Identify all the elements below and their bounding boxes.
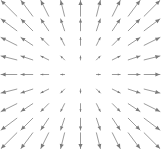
quiver-arrow	[79, 118, 82, 130]
quiver-arrow	[144, 104, 160, 112]
quiver-arrow	[21, 0, 33, 16]
quiver-arrow-head	[135, 108, 140, 112]
quiver-arrow-head	[135, 37, 140, 41]
quiver-arrow	[96, 89, 100, 93]
quiver-arrow	[144, 37, 160, 45]
quiver-arrow	[21, 118, 33, 130]
quiver-arrow	[61, 73, 65, 75]
quiver-arrow-head	[1, 90, 6, 94]
quiver-arrow	[128, 104, 140, 112]
quiver-arrow	[1, 0, 17, 16]
quiver-arrow-head	[60, 0, 64, 5]
quiver-arrow-head	[60, 144, 64, 149]
quiver-arrow-head	[79, 91, 81, 93]
quiver-arrow	[41, 56, 49, 60]
quiver-arrow	[1, 55, 17, 60]
quiver-arrow	[60, 19, 64, 31]
quiver-arrow	[112, 133, 120, 149]
quiver-arrow-head	[78, 0, 82, 5]
quiver-arrow	[79, 56, 81, 60]
quiver-arrow	[41, 37, 49, 45]
quiver-arrow	[21, 37, 33, 45]
quiver-arrow-head	[41, 125, 45, 130]
quiver-arrow	[112, 89, 120, 93]
quiver-arrow	[79, 104, 81, 112]
quiver-arrow-head	[21, 37, 26, 41]
quiver-arrow-head	[21, 0, 25, 5]
quiver-arrow	[128, 89, 140, 93]
quiver-arrow	[112, 73, 120, 75]
quiver-arrow	[112, 104, 120, 112]
quiver-arrow-head	[41, 19, 45, 24]
quiver-arrow	[79, 19, 82, 31]
quiver-arrow	[61, 37, 65, 45]
quiver-arrow-head	[155, 126, 160, 130]
quiver-arrow	[144, 0, 160, 16]
quiver-arrow	[112, 118, 120, 130]
quiver-arrow-head	[1, 55, 6, 59]
quiver-arrow-head	[79, 19, 82, 23]
quiver-arrow	[128, 118, 140, 130]
quiver-arrow-head	[21, 73, 25, 76]
quiver-arrow-head	[136, 90, 140, 93]
quiver-arrow	[21, 19, 33, 31]
quiver-arrow-head	[60, 19, 63, 23]
quiver-arrow-head	[79, 56, 81, 58]
quiver-arrow	[96, 118, 100, 130]
quiver-arrow	[128, 19, 140, 31]
quiver-arrow	[1, 133, 17, 149]
quiver-arrow	[128, 0, 140, 16]
quiver-arrow	[41, 118, 49, 130]
quiver-arrow	[96, 133, 101, 149]
quiver-arrow-head	[98, 73, 100, 75]
quiver-arrow	[61, 56, 65, 60]
quiver-arrow-head	[98, 19, 101, 23]
quiver-arrow-head	[1, 72, 6, 76]
quiver-arrow-head	[60, 126, 63, 130]
quiver-arrow-head	[98, 126, 101, 130]
quiver-arrow	[144, 133, 160, 149]
quiver-arrow	[112, 56, 120, 60]
quiver-arrow	[144, 89, 160, 94]
quiver-arrow-head	[136, 0, 140, 5]
quiver-arrow	[96, 0, 101, 16]
quiver-arrow-head	[97, 144, 101, 149]
quiver-arrow	[128, 73, 140, 76]
quiver-arrow-head	[41, 73, 43, 75]
quiver-arrow	[112, 19, 120, 31]
quiver-arrow	[144, 55, 160, 60]
quiver-arrow-head	[79, 127, 82, 131]
quiver-arrow	[1, 72, 17, 76]
quiver-arrow	[21, 89, 33, 93]
quiver-arrow-head	[78, 144, 82, 149]
quiver-arrow	[1, 37, 17, 45]
quiver-arrow	[128, 56, 140, 60]
quiver-arrow	[21, 56, 33, 60]
quiver-arrow	[1, 104, 17, 112]
quiver-arrow	[21, 73, 33, 76]
quiver-arrow	[61, 104, 65, 112]
quiver-arrow-head	[21, 56, 25, 59]
quiver-arrow-head	[155, 19, 160, 23]
quiver-arrow-head	[137, 73, 141, 76]
quiver-arrow	[41, 0, 49, 16]
quiver-arrow	[41, 89, 49, 93]
quiver-canvas	[0, 0, 161, 149]
quiver-arrow-head	[79, 37, 81, 39]
quiver-arrow	[96, 19, 100, 31]
quiver-arrow-head	[1, 19, 6, 23]
quiver-arrow	[96, 56, 100, 60]
quiver-arrow-head	[116, 125, 120, 130]
quiver-arrow-head	[136, 144, 140, 149]
vector-field-plot	[0, 0, 161, 149]
quiver-arrow-head	[61, 73, 63, 75]
quiver-arrow-head	[155, 55, 160, 59]
quiver-arrow-head	[155, 72, 160, 76]
quiver-arrow	[112, 37, 120, 45]
quiver-arrow-head	[79, 109, 81, 111]
quiver-arrow	[128, 37, 140, 45]
quiver-arrow-head	[155, 90, 160, 94]
quiver-arrow	[60, 0, 65, 16]
quiver-arrow-head	[1, 126, 6, 130]
quiver-arrow	[41, 133, 49, 149]
